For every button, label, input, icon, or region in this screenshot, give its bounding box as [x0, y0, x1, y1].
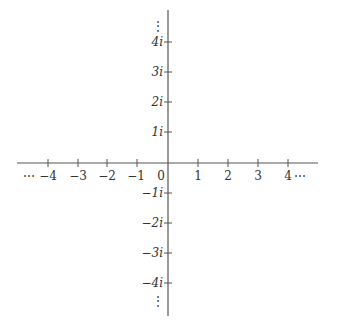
- imag-tick-label: −2i: [141, 216, 163, 230]
- imag-ellipsis-top: ⋮: [152, 19, 164, 33]
- imag-ellipsis-bottom: ⋮: [152, 294, 164, 308]
- imag-tick-label: −4i: [141, 276, 163, 290]
- imag-tick-label: −1i: [141, 186, 163, 200]
- real-tick-label: −2: [98, 169, 116, 183]
- real-tick-label: −3: [69, 169, 87, 183]
- real-tick-label: −1: [127, 169, 145, 183]
- complex-plane-diagram: ⋯ −4 −3 −2 −1 0 1 2 3 4 ⋯ ⋮ 4i 3i 2i 1i …: [0, 0, 337, 327]
- real-tick-label: 1: [194, 169, 202, 183]
- imag-tick-label: 3i: [152, 65, 164, 79]
- real-tick-label: −4: [39, 169, 57, 183]
- imag-tick-label: 4i: [151, 35, 164, 49]
- imag-tick-label: 1i: [152, 125, 164, 139]
- real-ellipsis-right: ⋯: [294, 169, 306, 183]
- real-tick-label: 2: [224, 169, 232, 183]
- origin-label: 0: [157, 169, 165, 183]
- real-tick-label: 4: [284, 169, 292, 183]
- imag-tick-label: −3i: [141, 246, 163, 260]
- real-ellipsis-left: ⋯: [23, 169, 35, 183]
- imag-tick-label: 2i: [151, 95, 164, 109]
- real-tick-label: 3: [254, 169, 262, 183]
